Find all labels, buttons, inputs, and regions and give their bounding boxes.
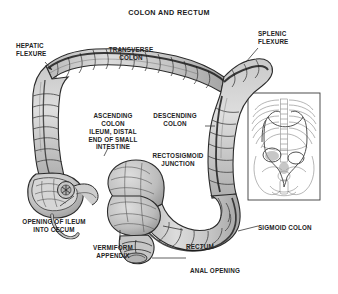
label-ascending-colon: ASCENDING COLON <box>84 112 142 127</box>
label-anal-opening: ANAL OPENING <box>190 267 240 275</box>
label-rectosigmoid-junction: RECTOSIGMOID JUNCTION <box>145 152 211 167</box>
label-hepatic-flexure: HEPATIC FLEXURE <box>16 42 46 57</box>
label-splenic-flexure: SPLENIC FLEXURE <box>258 30 288 45</box>
label-ileum-distal-end: ILEUM, DISTAL END OF SMALL INTESTINE <box>82 128 144 151</box>
label-sigmoid-colon: SIGMOID COLON <box>258 224 312 232</box>
label-descending-colon: DESCENDING COLON <box>146 112 204 127</box>
label-opening-of-ileum-into-cecum: OPENING OF ILEUM INTO CECUM <box>12 218 96 233</box>
label-vermiform-appendix: VERMIFORM APPENDIX <box>86 244 140 259</box>
torso-inset <box>248 93 320 200</box>
label-transverse-colon: TRANSVERSE COLON <box>96 46 166 61</box>
ascending-colon-graphic <box>33 66 68 178</box>
label-rectum: RECTUM <box>186 243 214 251</box>
figure-canvas: COLON AND RECTUM <box>0 0 338 294</box>
